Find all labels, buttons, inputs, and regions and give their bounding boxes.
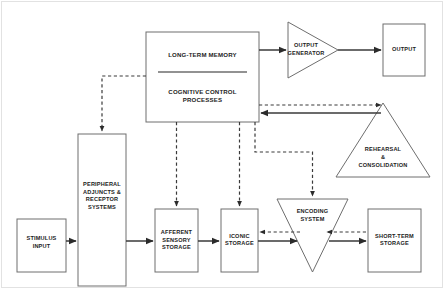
information-processing-diagram: STIMULUS INPUT PERIPHERAL ADJUNCTS & REC… [0, 0, 444, 304]
node-cognitive-line-0: COGNITIVE CONTROL [168, 88, 236, 95]
node-afferent-line-2: STORAGE [162, 244, 191, 250]
node-stimulus-input-line-1: INPUT [33, 243, 51, 249]
node-encoding-system[interactable]: ENCODING SYSTEM [277, 199, 348, 272]
node-peripheral-line-1: ADJUNCTS & [83, 189, 121, 195]
diagram-canvas: STIMULUS INPUT PERIPHERAL ADJUNCTS & REC… [0, 0, 444, 304]
node-rehearsal-line-0: REHEARSAL [365, 146, 402, 152]
node-iconic-storage[interactable]: ICONIC STORAGE [221, 209, 258, 272]
node-output-generator[interactable]: OUTPUT GENERATOR [288, 22, 338, 78]
link-cognitive-to-peripheral [102, 76, 146, 131]
node-encoding-line-0: ENCODING [297, 208, 329, 214]
node-stimulus-input[interactable]: STIMULUS INPUT [17, 219, 66, 272]
node-long-term-memory-block[interactable]: LONG-TERM MEMORY COGNITIVE CONTROL PROCE… [146, 32, 259, 122]
link-cognitive-to-encoding [255, 122, 313, 196]
node-short-term-line-0: SHORT-TERM [375, 233, 414, 239]
node-long-term-memory-label: LONG-TERM MEMORY [168, 51, 237, 58]
node-short-term-line-1: STORAGE [380, 240, 409, 246]
node-afferent-sensory-storage[interactable]: AFFERENT SENSORY STORAGE [155, 209, 198, 272]
node-cognitive-line-1: PROCESSES [183, 96, 223, 103]
node-peripheral-line-3: SYSTEMS [88, 204, 116, 210]
node-peripheral-line-2: RECEPTOR [86, 196, 118, 202]
node-output-label: OUTPUT [392, 46, 416, 52]
node-afferent-line-1: SENSORY [162, 237, 190, 243]
node-encoding-line-1: SYSTEM [300, 216, 324, 222]
node-output[interactable]: OUTPUT [383, 24, 425, 76]
node-short-term-storage[interactable]: SHORT-TERM STORAGE [368, 209, 421, 272]
node-iconic-line-0: ICONIC [229, 233, 250, 239]
node-peripheral-adjuncts[interactable]: PERIPHERAL ADJUNCTS & RECEPTOR SYSTEMS [78, 134, 126, 286]
node-stimulus-input-line-0: STIMULUS [26, 235, 56, 241]
node-peripheral-line-0: PERIPHERAL [83, 181, 121, 187]
node-output-generator-line-0: OUTPUT [294, 42, 318, 48]
node-output-generator-line-1: GENERATOR [288, 50, 325, 56]
node-afferent-line-0: AFFERENT [161, 229, 193, 235]
node-rehearsal-line-2: CONSOLIDATION [359, 162, 408, 168]
node-iconic-line-1: STORAGE [225, 240, 254, 246]
node-rehearsal-consolidation[interactable]: REHEARSAL & CONSOLIDATION [336, 103, 430, 177]
node-rehearsal-line-1: & [381, 154, 385, 160]
